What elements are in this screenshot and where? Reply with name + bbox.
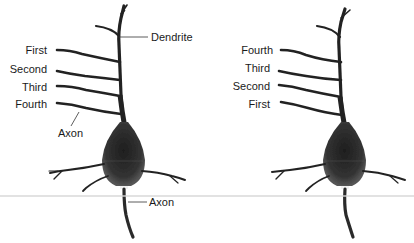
left-branch-fourth (57, 103, 121, 114)
right-basal-dendrite-left (272, 164, 325, 172)
left-basal-dendrite-right (142, 171, 185, 180)
left-label-upper-axon: Axon (58, 127, 83, 139)
left-basal-dendrite-lower (83, 176, 108, 191)
left-label-second: Second (10, 63, 47, 75)
right-label-fourth: Fourth (241, 44, 273, 56)
right-branch-third (279, 71, 341, 80)
left-label-lower-axon: Axon (149, 196, 174, 208)
left-label-first: First (26, 44, 47, 56)
left-label-fourth: Fourth (15, 98, 47, 110)
neuron-branch-order-diagram: Dendrite First Second Third Fourth Axon … (0, 0, 414, 243)
right-basal-dendrite-right (363, 171, 405, 180)
right-label-second: Second (233, 80, 270, 92)
left-branch-third (57, 86, 120, 96)
left-top-side-branch (96, 26, 119, 36)
right-top-side-branch (317, 26, 340, 37)
left-branch-first (57, 50, 120, 62)
label-dendrite: Dendrite (151, 31, 193, 43)
right-branch-second (279, 85, 341, 97)
right-neuron (272, 9, 405, 237)
right-basal-dendrite-lower (306, 176, 329, 191)
left-label-third: Third (22, 81, 47, 93)
right-branch-fourth (281, 50, 341, 62)
left-basal-dendrite-left (50, 164, 104, 173)
left-upper-axon-leader-line (71, 112, 79, 126)
right-label-first: First (249, 98, 270, 110)
right-label-third: Third (245, 62, 270, 74)
left-branch-second (57, 71, 120, 80)
diagram-canvas: Dendrite First Second Third Fourth Axon … (0, 0, 414, 243)
right-branch-first (281, 102, 342, 115)
